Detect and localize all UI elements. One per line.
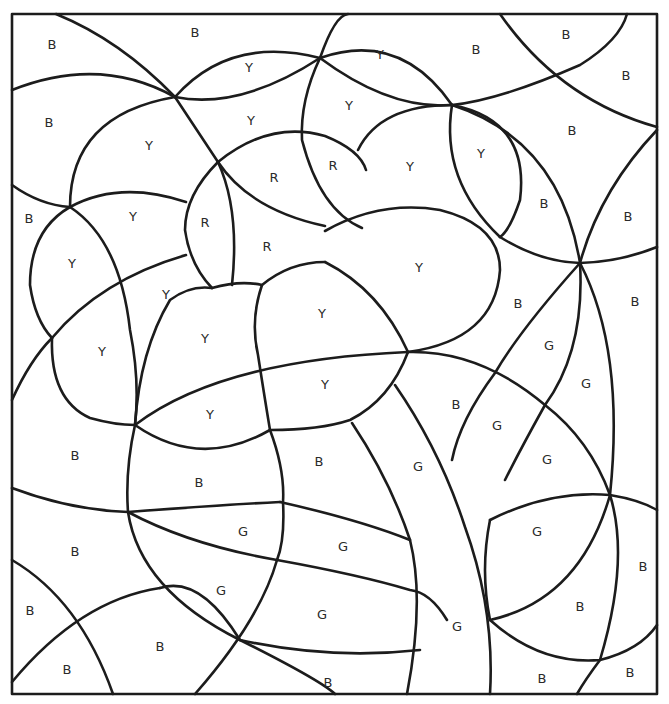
region-label-b[interactable]: B [71,545,80,558]
region-label-b[interactable]: B [538,672,547,685]
region-label-g[interactable]: G [544,339,554,352]
region-label-g[interactable]: G [492,419,502,432]
region-label-y[interactable]: Y [318,307,326,320]
region-label-b[interactable]: B [622,69,631,82]
region-label-b[interactable]: B [26,604,35,617]
region-label-y[interactable]: Y [321,378,329,391]
region-label-y[interactable]: Y [415,261,423,274]
region-label-b[interactable]: B [568,124,577,137]
region-label-y[interactable]: Y [68,257,76,270]
region-label-b[interactable]: B [25,212,34,225]
region-label-b[interactable]: B [156,640,165,653]
region-label-b[interactable]: B [472,43,481,56]
region-labels: BBYYBBBBYYYBRRYYBBBYRRYYYBBYYYGGYYBGBBGG… [0,0,669,704]
region-label-r[interactable]: R [328,159,337,172]
region-label-b[interactable]: B [195,476,204,489]
region-label-b[interactable]: B [191,26,200,39]
region-label-y[interactable]: Y [406,160,414,173]
region-label-b[interactable]: B [624,210,633,223]
region-label-y[interactable]: Y [162,288,170,301]
region-label-b[interactable]: B [639,560,648,573]
region-label-y[interactable]: Y [145,139,153,152]
region-label-g[interactable]: G [338,540,348,553]
coloring-sheet: BBYYBBBBYYYBRRYYBBBYRRYYYBBYYYGGYYBGBBGG… [0,0,669,704]
region-label-b[interactable]: B [48,38,57,51]
region-label-b[interactable]: B [576,600,585,613]
region-label-b[interactable]: B [71,449,80,462]
region-label-b[interactable]: B [631,295,640,308]
region-label-g[interactable]: G [452,620,462,633]
region-label-b[interactable]: B [63,663,72,676]
region-label-b[interactable]: B [562,28,571,41]
region-label-y[interactable]: Y [247,114,255,127]
region-label-y[interactable]: Y [345,99,353,112]
region-label-b[interactable]: B [626,666,635,679]
region-label-g[interactable]: G [581,377,591,390]
region-label-b[interactable]: B [315,455,324,468]
region-label-b[interactable]: B [45,116,54,129]
region-label-b[interactable]: B [540,197,549,210]
region-label-y[interactable]: Y [206,408,214,421]
region-label-g[interactable]: G [542,453,552,466]
region-label-g[interactable]: G [413,460,423,473]
region-label-y[interactable]: Y [245,61,253,74]
region-label-b[interactable]: B [452,398,461,411]
region-label-g[interactable]: G [238,525,248,538]
region-label-b[interactable]: B [324,676,333,689]
region-label-y[interactable]: Y [477,147,485,160]
region-label-g[interactable]: G [532,525,542,538]
region-label-g[interactable]: G [216,584,226,597]
region-label-r[interactable]: R [200,216,209,229]
region-label-b[interactable]: B [514,297,523,310]
region-label-y[interactable]: Y [129,210,137,223]
region-label-y[interactable]: Y [376,48,384,61]
region-label-g[interactable]: G [317,608,327,621]
region-label-y[interactable]: Y [98,345,106,358]
region-label-y[interactable]: Y [201,332,209,345]
region-label-r[interactable]: R [262,240,271,253]
region-label-r[interactable]: R [269,171,278,184]
